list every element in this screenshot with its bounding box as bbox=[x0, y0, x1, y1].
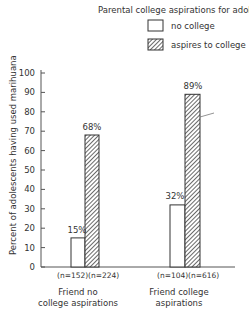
n-label-aspires-2: (n=616) bbox=[188, 271, 219, 280]
bar-aspires-1 bbox=[85, 135, 99, 267]
legend: no college aspires to college bbox=[148, 20, 246, 50]
n-label-aspires-1: (n=224) bbox=[88, 271, 119, 280]
category-label-1-line2: college aspirations bbox=[38, 298, 119, 308]
bar-no-college-1 bbox=[71, 238, 85, 267]
value-label-aspires-1: 68% bbox=[83, 122, 102, 132]
value-label-no-college-1: 15% bbox=[68, 225, 87, 235]
legend-label-no-college: no college bbox=[171, 21, 215, 31]
y-tick-label: 40 bbox=[24, 184, 35, 194]
bar-aspires-2 bbox=[185, 94, 200, 267]
bar-group-friend-no-college: 15% 68% bbox=[68, 122, 102, 267]
y-tick-label: 80 bbox=[24, 107, 35, 117]
legend-label-aspires-to-college: aspires to college bbox=[171, 40, 246, 50]
category-label-1-line1: Friend no bbox=[58, 287, 97, 297]
value-label-aspires-2: 89% bbox=[184, 81, 203, 91]
y-tick-label: 100 bbox=[19, 68, 35, 78]
legend-swatch-aspires-to-college bbox=[148, 39, 163, 50]
legend-title: Parental college aspirations for adolesc… bbox=[98, 5, 249, 15]
y-axis: 0102030405060708090100 bbox=[19, 68, 45, 272]
y-tick-label: 50 bbox=[24, 165, 35, 175]
annotation-mark bbox=[200, 113, 214, 117]
bar-no-college-2 bbox=[170, 205, 185, 267]
legend-swatch-no-college bbox=[148, 20, 163, 31]
y-tick-label: 30 bbox=[24, 204, 35, 214]
y-tick-label: 70 bbox=[24, 126, 35, 136]
y-tick-label: 90 bbox=[24, 87, 35, 97]
bar-group-friend-college: 32% 89% bbox=[166, 81, 214, 267]
y-tick-label: 20 bbox=[24, 223, 35, 233]
category-label-2-line2: aspirations bbox=[156, 298, 203, 308]
y-axis-label: Percent of adolescents having used marih… bbox=[8, 55, 18, 255]
n-label-no-college-2: (n=104) bbox=[157, 271, 188, 280]
bar-chart: Parental college aspirations for adolesc… bbox=[0, 0, 249, 314]
y-tick-label: 60 bbox=[24, 146, 35, 156]
y-tick-label: 10 bbox=[24, 243, 35, 253]
value-label-no-college-2: 32% bbox=[166, 191, 185, 201]
category-label-2-line1: Friend college bbox=[149, 287, 208, 297]
n-label-no-college-1: (n=152) bbox=[57, 271, 88, 280]
y-tick-label: 0 bbox=[30, 262, 35, 272]
